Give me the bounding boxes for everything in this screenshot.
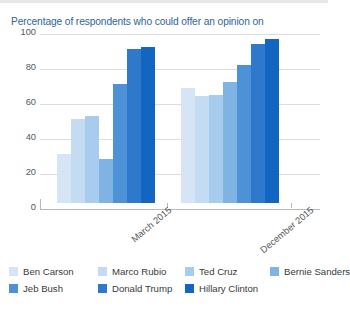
y-axis-tick-label: 40: [8, 132, 36, 142]
top-divider: [0, 0, 328, 3]
y-axis-tick-label: 100: [8, 27, 36, 37]
x-axis-label: March 2015: [129, 205, 173, 244]
bar-group: [181, 28, 279, 203]
bar[interactable]: [71, 119, 85, 203]
legend-item[interactable]: Hillary Clinton: [185, 283, 258, 294]
bar[interactable]: [251, 44, 265, 203]
x-axis-labels: March 2015December 2015: [0, 205, 328, 255]
legend-label: Hillary Clinton: [199, 283, 258, 294]
y-axis-tick-label: 80: [8, 62, 36, 72]
bar[interactable]: [195, 96, 209, 203]
bar[interactable]: [113, 84, 127, 203]
bar[interactable]: [237, 65, 251, 203]
legend-swatch-icon: [185, 284, 194, 293]
chart-legend: Ben CarsonMarco RubioTed CruzBernie Sand…: [9, 266, 323, 300]
chart-title: Percentage of respondents who could offe…: [11, 16, 264, 28]
legend-label: Ben Carson: [23, 266, 74, 277]
bar[interactable]: [265, 39, 279, 204]
legend-item[interactable]: Jeb Bush: [9, 283, 63, 294]
legend-swatch-icon: [98, 284, 107, 293]
bar[interactable]: [223, 82, 237, 203]
legend-item[interactable]: Marco Rubio: [98, 266, 166, 277]
legend-item[interactable]: Donald Trump: [98, 283, 172, 294]
x-axis-label: December 2015: [258, 205, 315, 255]
legend-item[interactable]: Ted Cruz: [185, 266, 237, 277]
y-axis-tick-label: 20: [8, 167, 36, 177]
legend-swatch-icon: [98, 267, 107, 276]
legend-row: Ben CarsonMarco RubioTed CruzBernie Sand…: [9, 266, 323, 283]
bar[interactable]: [127, 49, 141, 203]
legend-label: Marco Rubio: [112, 266, 166, 277]
bar[interactable]: [141, 47, 155, 203]
legend-item[interactable]: Bernie Sanders: [270, 266, 350, 277]
bar[interactable]: [99, 159, 113, 203]
y-axis-tick-label: 60: [8, 97, 36, 107]
legend-label: Bernie Sanders: [284, 266, 350, 277]
legend-swatch-icon: [270, 267, 279, 276]
legend-swatch-icon: [185, 267, 194, 276]
legend-item[interactable]: Ben Carson: [9, 266, 74, 277]
legend-swatch-icon: [9, 267, 18, 276]
bar[interactable]: [209, 95, 223, 204]
bar[interactable]: [57, 154, 71, 203]
bar-group: [57, 28, 155, 203]
legend-swatch-icon: [9, 284, 18, 293]
legend-row: Jeb BushDonald TrumpHillary Clinton: [9, 283, 323, 300]
legend-label: Donald Trump: [112, 283, 172, 294]
bars-layer: [41, 28, 320, 203]
bar[interactable]: [181, 88, 195, 204]
bar[interactable]: [85, 116, 99, 204]
legend-label: Jeb Bush: [23, 283, 63, 294]
plot-area: 100806040200: [0, 28, 328, 210]
legend-label: Ted Cruz: [199, 266, 237, 277]
